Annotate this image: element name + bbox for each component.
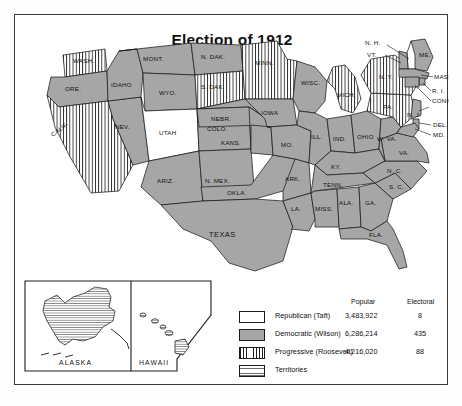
legend-header-popular: Popular [351, 298, 375, 305]
label-kans: KANS. [221, 139, 241, 146]
state-minnesota [241, 41, 297, 99]
label-ark: ARK. [285, 175, 300, 182]
legend-swatch-democratic [239, 329, 265, 341]
label-mo: MO. [281, 141, 293, 148]
label-wyo: WYO. [159, 89, 177, 96]
label-hawaii: HAWAII [139, 359, 169, 366]
legend-popular-democratic: 6,286,214 [345, 329, 399, 338]
legend-row-progressive: Progressive (Roosevelt) 4,216,020 88 [227, 345, 449, 363]
label-ala: ALA. [339, 199, 353, 206]
label-colo: COLO. [207, 125, 228, 132]
label-vt: VT. [367, 51, 377, 58]
label-nmex: N. MEX. [205, 177, 230, 184]
legend-header-row: Popular Electoral [227, 298, 449, 309]
page-background: Election of 1912 [0, 0, 462, 406]
legend-label-democratic: Democratic (Wilson) [275, 329, 341, 338]
label-va: VA. [399, 149, 409, 156]
label-alaska: ALASKA [59, 359, 92, 366]
label-ohio: OHIO [357, 133, 374, 140]
map-frame: Election of 1912 [14, 14, 448, 385]
label-pa: PA. [383, 103, 393, 110]
alaska-panhandle [111, 329, 129, 349]
legend-row-democratic: Democratic (Wilson) 6,286,214 435 [227, 327, 449, 345]
label-ind: IND. [333, 135, 346, 142]
label-ny: N. Y. [379, 73, 393, 80]
label-tenn: TENN. [323, 181, 343, 188]
alaska-aleutians [41, 353, 73, 357]
label-wisc: WISC. [301, 79, 320, 86]
legend-row-republican: Republican (Taft) 3,483,922 8 [227, 309, 449, 327]
label-nc: N. C. [387, 167, 402, 174]
state-idaho [107, 49, 143, 101]
legend-label-republican: Republican (Taft) [275, 311, 330, 320]
leader-line-md [415, 129, 431, 135]
legend-electoral-democratic: 435 [405, 329, 435, 338]
legend-electoral-republican: 8 [405, 311, 435, 320]
label-minn: MINN. [255, 59, 274, 66]
legend-swatch-republican [239, 311, 265, 323]
label-idaho: IDAHO [111, 81, 132, 88]
legend-popular-progressive: 4,216,020 [345, 347, 399, 356]
label-fla: FLA. [369, 231, 383, 238]
label-wash: WASH. [73, 57, 94, 64]
label-mich: MICH. [337, 91, 356, 98]
state-kansas-b [251, 125, 273, 155]
label-md: MD. [433, 131, 445, 138]
label-ill: ILL. [311, 133, 322, 140]
leader-line-del [419, 123, 431, 125]
label-del: DEL. [433, 121, 448, 128]
label-sdak: S. DAK. [201, 83, 225, 90]
label-ri: R. I. [432, 87, 445, 94]
label-nh: N. H. [365, 39, 380, 46]
label-mass: MASS. [434, 73, 449, 80]
legend-label-territories: Territories [275, 365, 307, 374]
label-me: ME. [419, 51, 431, 58]
label-wva: W. VA. [377, 135, 397, 142]
state-michigan [327, 65, 361, 113]
legend-electoral-progressive: 88 [405, 347, 435, 356]
state-alaska [43, 287, 115, 345]
label-conn: CONN. [432, 97, 449, 104]
state-connecticut [405, 77, 419, 87]
label-ore: ORE. [65, 85, 81, 92]
legend-header-electoral: Electoral [407, 298, 434, 305]
label-iowa: IOWA [261, 109, 279, 116]
label-nev: NEV. [115, 123, 130, 130]
leader-line-ri [423, 83, 431, 91]
label-okla: OKLA. [227, 189, 247, 196]
label-utah: UTAH [159, 129, 176, 136]
legend-swatch-territories [239, 365, 265, 377]
label-ga: GA. [365, 199, 376, 206]
state-alabama [337, 187, 361, 229]
label-nj: N. J. [407, 111, 421, 118]
map-legend: Popular Electoral Republican (Taft) 3,48… [227, 298, 449, 381]
label-ndak: N. DAK. [201, 53, 225, 60]
state-ohio [351, 111, 381, 153]
legend-swatch-progressive [239, 347, 265, 359]
legend-row-territories: Territories [227, 363, 449, 381]
label-sc: S. C. [389, 183, 404, 190]
state-wisconsin [293, 61, 327, 113]
leader-line-conn [415, 85, 431, 101]
legend-popular-republican: 3,483,922 [345, 311, 399, 320]
label-mont: MONT. [143, 55, 164, 62]
label-la: LA. [291, 205, 301, 212]
label-texas: TEXAS [209, 230, 236, 239]
label-nebr: NEBR. [211, 115, 231, 122]
hawaii-islands [140, 313, 189, 355]
state-indiana [327, 115, 355, 153]
label-ky: KY. [331, 163, 341, 170]
label-miss: MISS. [315, 205, 333, 212]
label-ariz: ARIZ. [157, 177, 174, 184]
legend-label-progressive: Progressive (Roosevelt) [275, 347, 353, 356]
